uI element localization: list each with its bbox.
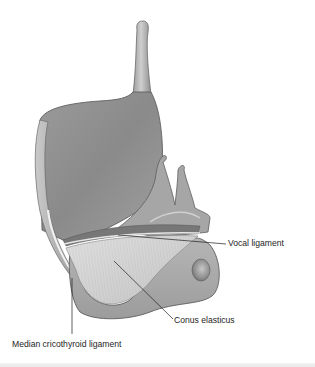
label-median-cricothyroid-ligament: Median cricothyroid ligament <box>12 340 121 349</box>
larynx-illustration <box>0 0 315 367</box>
superior-horn <box>133 21 151 94</box>
articular-facet <box>192 259 210 281</box>
label-conus-elasticus: Conus elasticus <box>174 316 235 325</box>
label-vocal-ligament: Vocal ligament <box>228 239 284 248</box>
bottom-divider <box>0 363 315 367</box>
